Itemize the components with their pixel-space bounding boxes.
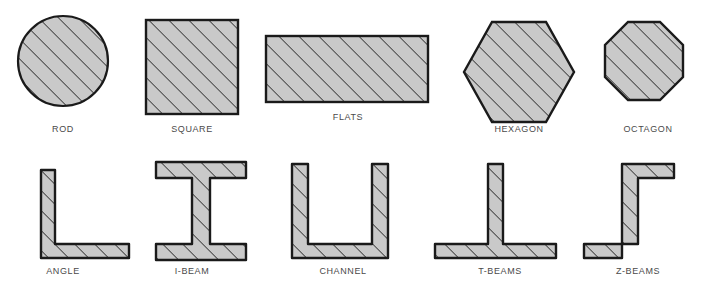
shape-cell-octagon: OCTAGON (590, 0, 706, 140)
shapes-figure: ROD SQUARE FLATS (0, 0, 706, 289)
shape-label-t-beams: T-BEAMS (430, 266, 570, 276)
square-drawing (128, 0, 256, 120)
shape-label-channel: CHANNEL (258, 266, 428, 276)
shape-label-angle: ANGLE (0, 266, 126, 276)
octagon-drawing (590, 0, 706, 126)
shape-label-i-beam: I-BEAM (128, 266, 256, 276)
shape-cell-z-beams: Z-BEAMS (570, 150, 706, 280)
z-beams-drawing (570, 150, 706, 262)
shape-cell-i-beam: I-BEAM (128, 150, 256, 280)
shape-cell-rod: ROD (0, 0, 126, 140)
rod-drawing (0, 0, 126, 120)
shape-label-flats: FLATS (262, 112, 434, 122)
angle-drawing (0, 150, 146, 262)
t-beams-drawing (430, 150, 570, 262)
i-beam-drawing (128, 150, 256, 262)
shape-label-hexagon: HEXAGON (452, 124, 586, 134)
flats-drawing (262, 0, 434, 106)
shape-cell-angle: ANGLE (0, 150, 126, 280)
shape-cell-t-beams: T-BEAMS (430, 150, 570, 280)
shape-cell-hexagon: HEXAGON (452, 0, 586, 140)
shape-cell-flats: FLATS (262, 0, 434, 140)
shape-cell-channel: CHANNEL (258, 150, 428, 280)
channel-drawing (258, 150, 428, 262)
hexagon-drawing (452, 0, 586, 126)
shape-label-rod: ROD (0, 124, 126, 134)
shape-label-z-beams: Z-BEAMS (570, 266, 706, 276)
shape-cell-square: SQUARE (128, 0, 256, 140)
shape-label-octagon: OCTAGON (590, 124, 706, 134)
shape-label-square: SQUARE (128, 124, 256, 134)
